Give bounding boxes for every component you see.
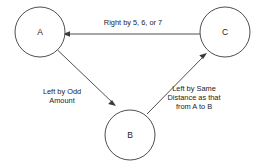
edge-a-to-b-label-line-2: Amount [49,96,74,105]
node-a[interactable]: A [15,7,65,57]
edge-b-to-c-label-line-3: from A to B [176,102,212,111]
node-b[interactable]: B [105,110,155,160]
edge-b-to-c-label-line-1: Left by Same [172,84,216,93]
node-b-label: B [127,130,133,140]
node-a-label: A [37,27,43,37]
edge-a-to-b-arrowhead-icon [108,100,116,106]
edge-b-to-c[interactable]: Left by Same Distance as that from A to … [147,53,221,114]
edge-c-to-a[interactable]: Right by 5, 6, or 7 [63,18,200,37]
edge-a-to-b[interactable]: Left by Odd Amount [43,50,116,106]
edge-b-to-c-label-line-2: Distance as that [168,93,221,102]
node-c-label: C [222,27,228,37]
edge-b-to-c-arrowhead-icon [199,53,207,59]
edge-a-to-b-label-line-1: Left by Odd [43,87,81,96]
diagram-canvas: Right by 5, 6, or 7 Left by Odd Amount L… [0,0,262,163]
node-c[interactable]: C [200,7,250,57]
graph-svg: Right by 5, 6, or 7 Left by Odd Amount L… [0,0,262,163]
edge-c-to-a-label: Right by 5, 6, or 7 [104,18,162,27]
